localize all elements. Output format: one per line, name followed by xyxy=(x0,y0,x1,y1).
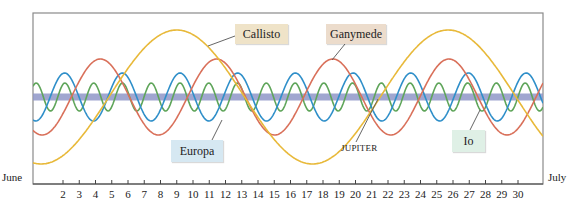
x-tick-label: 19 xyxy=(334,188,345,200)
x-tick-label: 12 xyxy=(220,188,231,200)
x-tick-label: 26 xyxy=(448,188,459,200)
x-tick-label: 29 xyxy=(496,188,507,200)
x-tick-label: 21 xyxy=(366,188,377,200)
io-label: Io xyxy=(452,130,485,152)
x-tick-label: 18 xyxy=(318,188,329,200)
callisto-label: Callisto xyxy=(235,24,288,44)
x-tick-label: 5 xyxy=(109,188,115,200)
x-tick-label: 25 xyxy=(431,188,442,200)
x-tick-label: 17 xyxy=(301,188,312,200)
x-tick-label: 30 xyxy=(513,188,524,200)
june-label: June xyxy=(2,171,22,183)
x-tick-label: 6 xyxy=(125,188,131,200)
io-pointer xyxy=(470,110,480,130)
x-tick-label: 27 xyxy=(464,188,475,200)
x-tick-label: 8 xyxy=(158,188,164,200)
europa-label: Europa xyxy=(171,140,223,162)
europa-pointer xyxy=(212,120,222,140)
jupiter-label: JUPITER xyxy=(341,143,377,153)
x-tick-label: 24 xyxy=(415,188,426,200)
x-tick-label: 16 xyxy=(285,188,296,200)
x-tick-label: 23 xyxy=(399,188,410,200)
callisto-pointer xyxy=(208,36,235,46)
x-tick-label: 15 xyxy=(269,188,280,200)
x-tick-label: 4 xyxy=(93,188,99,200)
ganymede-pointer xyxy=(332,44,345,60)
x-tick-label: 22 xyxy=(383,188,394,200)
x-tick-label: 2 xyxy=(60,188,66,200)
x-tick-label: 14 xyxy=(253,188,264,200)
x-tick-label: 28 xyxy=(480,188,491,200)
plot-area xyxy=(33,13,543,184)
ganymede-label: Ganymede xyxy=(326,24,386,44)
x-tick-label: 7 xyxy=(142,188,148,200)
july-label: July xyxy=(548,171,566,183)
x-tick-label: 13 xyxy=(236,188,247,200)
x-tick-label: 3 xyxy=(77,188,83,200)
x-tick-label: 10 xyxy=(188,188,199,200)
x-tick-label: 9 xyxy=(174,188,180,200)
x-tick-label: 20 xyxy=(350,188,361,200)
x-tick-label: 11 xyxy=(204,188,215,200)
